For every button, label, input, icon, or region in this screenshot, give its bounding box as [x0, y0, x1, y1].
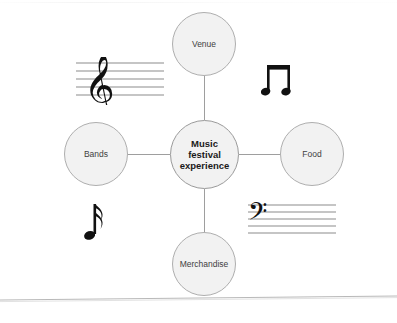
diagram-canvas: 𝄞 𝄢 Venue Bands Food Merch	[0, 0, 397, 323]
node-bands-label: Bands	[81, 149, 111, 159]
node-venue[interactable]: Venue	[172, 12, 236, 76]
node-center-topic[interactable]: Music festival experience	[170, 120, 239, 189]
node-venue-label: Venue	[189, 39, 219, 49]
node-merchandise-label: Merchandise	[177, 259, 232, 269]
node-food[interactable]: Food	[280, 122, 344, 186]
node-center-label: Music festival experience	[177, 138, 233, 172]
node-merchandise[interactable]: Merchandise	[172, 232, 236, 296]
node-bands[interactable]: Bands	[64, 122, 128, 186]
node-food-label: Food	[299, 149, 324, 159]
